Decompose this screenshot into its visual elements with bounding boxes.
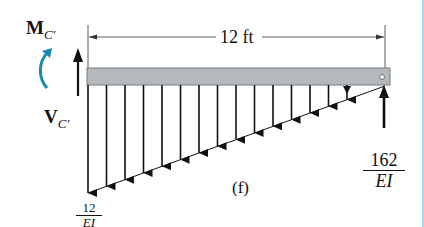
right-reaction-value: 162 EI bbox=[363, 151, 405, 190]
moment-label-main: M bbox=[26, 17, 44, 38]
shear-label: VC′ bbox=[44, 106, 69, 128]
shear-label-main: V bbox=[44, 106, 58, 127]
shear-arrow-icon bbox=[73, 48, 83, 96]
distributed-load bbox=[88, 85, 385, 193]
dimension-arrow-left-icon bbox=[89, 35, 97, 40]
span-label: 12 ft bbox=[220, 27, 254, 48]
right-reaction-numerator: 162 bbox=[363, 151, 405, 169]
moment-label: MC′ bbox=[26, 17, 55, 39]
reaction-arrow-icon bbox=[379, 85, 389, 128]
moment-label-subscript: C′ bbox=[44, 27, 56, 42]
figure-caption: (f) bbox=[232, 178, 249, 198]
left-load-value: 12 EI bbox=[76, 202, 102, 227]
dimension-arrow-right-icon bbox=[376, 35, 384, 40]
shear-label-subscript: C′ bbox=[58, 116, 70, 131]
right-reaction-denominator: EI bbox=[363, 172, 405, 190]
beam bbox=[87, 68, 390, 85]
moment-arrow-icon bbox=[40, 48, 52, 88]
hinge-icon bbox=[380, 75, 385, 80]
left-load-denominator: EI bbox=[76, 217, 102, 227]
left-load-numerator: 12 bbox=[76, 202, 102, 214]
